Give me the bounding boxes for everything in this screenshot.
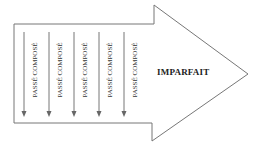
imparfait-label: IMPARFAIT (157, 67, 209, 77)
passe-compose-label-4: PASSÉ COMPOSÉ (106, 37, 114, 103)
passe-compose-label-3: PASSÉ COMPOSÉ (81, 37, 89, 103)
passe-compose-label-2: PASSÉ COMPOSÉ (56, 37, 64, 103)
passe-compose-label-5: PASSÉ COMPOSÉ (131, 37, 139, 103)
passe-compose-label-1: PASSÉ COMPOSÉ (31, 37, 39, 103)
